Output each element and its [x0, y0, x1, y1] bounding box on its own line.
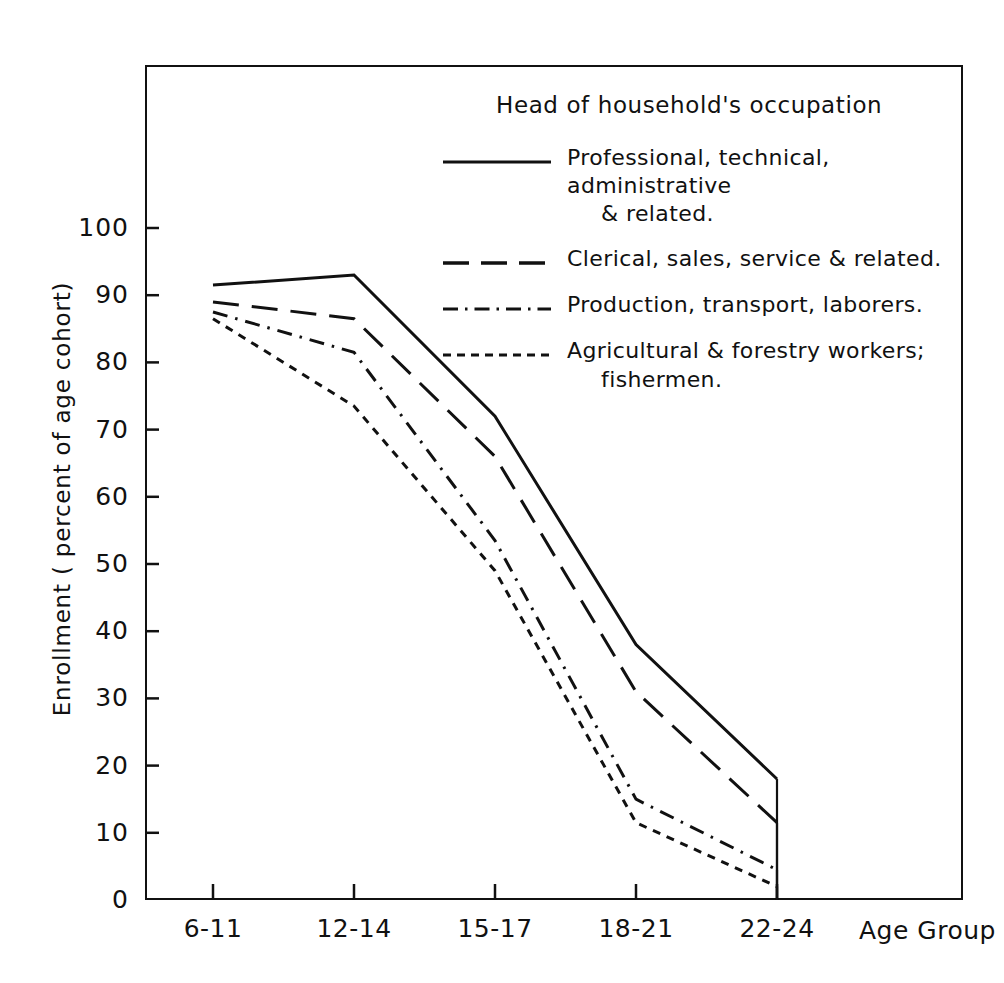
x-tick-label: 6-11 [153, 916, 273, 941]
legend-item: Professional, technical, administrative … [441, 144, 961, 228]
legend-label: Professional, technical, administrative … [553, 144, 961, 228]
legend-label-line2: & related. [567, 200, 961, 228]
legend-label-line1: Production, transport, laborers. [567, 292, 923, 317]
legend-item: Production, transport, laborers. [441, 291, 961, 320]
legend-item: Agricultural & forestry workers; fisherm… [441, 337, 961, 393]
legend-label-line1: Professional, technical, administrative [567, 145, 830, 198]
y-tick-label: 10 [59, 820, 129, 845]
legend-swatch-dashed [441, 252, 553, 274]
legend-label-line2: fishermen. [567, 366, 925, 394]
chart-legend: Head of household's occupation Professio… [441, 92, 961, 411]
legend-label: Agricultural & forestry workers; fisherm… [553, 337, 925, 393]
y-tick-label: 0 [59, 887, 129, 912]
x-tick-label: 22-24 [717, 916, 837, 941]
chart-figure: 0102030405060708090100 6-1112-1415-1718-… [0, 0, 1004, 983]
legend-label: Clerical, sales, service & related. [553, 245, 942, 273]
legend-label: Production, transport, laborers. [553, 291, 923, 319]
legend-label-line1: Agricultural & forestry workers; [567, 338, 925, 363]
y-axis-ticks [145, 228, 159, 833]
y-axis-title: Enrollment ( percent of age cohort) [49, 239, 75, 759]
x-axis-ticks [213, 884, 777, 900]
legend-item: Clerical, sales, service & related. [441, 245, 961, 274]
legend-swatch-solid [441, 151, 553, 173]
y-tick-label: 100 [59, 215, 129, 240]
legend-swatch-dashdot [441, 298, 553, 320]
x-axis-title: Age Group [859, 916, 996, 945]
legend-label-line1: Clerical, sales, service & related. [567, 246, 942, 271]
legend-title: Head of household's occupation [496, 92, 961, 118]
x-tick-label: 12-14 [294, 916, 414, 941]
x-tick-label: 15-17 [435, 916, 555, 941]
x-tick-label: 18-21 [576, 916, 696, 941]
legend-swatch-dotted [441, 344, 553, 366]
